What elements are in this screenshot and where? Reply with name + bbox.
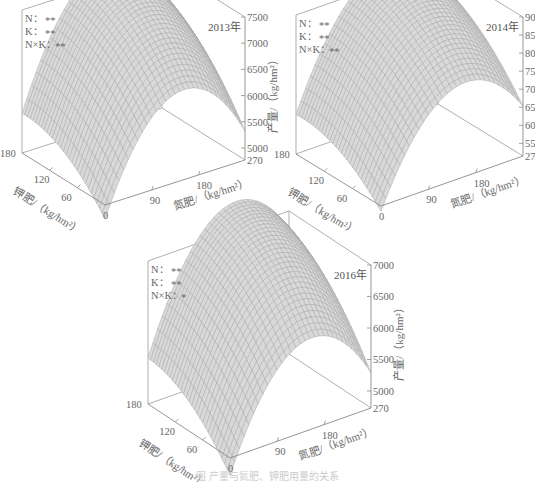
k-tick-label: 180 xyxy=(0,148,16,159)
significance-stars: ** xyxy=(319,33,330,44)
significance-label: K： xyxy=(25,26,43,37)
k-tick-label: 60 xyxy=(337,193,348,204)
z-tick-label: 7000 xyxy=(525,84,535,95)
significance-label: K： xyxy=(299,31,317,42)
chart-2014: 5500600065007000750080008500900009018027… xyxy=(278,0,535,230)
z-tick-label: 5500 xyxy=(525,138,535,149)
chart-2013: 5000550060006500700075000901802706012018… xyxy=(0,0,270,230)
significance-label: N： xyxy=(25,13,43,24)
k-tick-label: 60 xyxy=(61,192,71,203)
n-tick-label: 90 xyxy=(426,194,437,205)
significance-stars: ** xyxy=(45,15,56,26)
significance-label: N×K： xyxy=(299,44,330,55)
z-tick-label: 7000 xyxy=(247,38,268,49)
z-axis-title: 产量/（kg/hm²） xyxy=(392,302,405,380)
z-axis-ticks: 55006000650070007500800085009000 xyxy=(519,12,535,149)
n-tick-label: 0 xyxy=(103,210,108,221)
n-tick-label: 270 xyxy=(247,155,263,166)
z-tick-label: 5500 xyxy=(373,354,394,365)
z-tick-label: 7000 xyxy=(373,260,394,271)
k-axis-title: 钾肥/（kg/hm²） xyxy=(11,184,84,237)
surface-plot-2014: 5500600065007000750080008500900009018027… xyxy=(278,0,535,230)
n-tick-label: 0 xyxy=(379,211,384,222)
z-tick-label: 9000 xyxy=(525,12,535,23)
k-axis-title: 钾肥/（kg/hm²） xyxy=(286,185,360,237)
significance-stars: * xyxy=(181,292,186,303)
k-tick-label: 120 xyxy=(308,175,324,186)
z-tick-label: 5000 xyxy=(373,386,394,397)
significance-label: N×K： xyxy=(25,39,56,50)
z-tick-label: 7500 xyxy=(247,12,268,23)
surface-plot-2016: 5000550060006500700009018027060120180氮肥/… xyxy=(128,248,418,473)
year-label: 2016年 xyxy=(334,268,367,281)
significance-legend: N：**K：**N×K：* xyxy=(151,264,186,303)
z-tick-label: 6500 xyxy=(373,291,394,302)
z-tick-label: 8000 xyxy=(525,48,535,59)
k-tick-label: 180 xyxy=(126,399,142,410)
k-tick-label: 60 xyxy=(187,444,198,455)
n-tick-label: 270 xyxy=(525,151,535,162)
n-tick-label: 270 xyxy=(373,403,389,414)
year-label: 2014年 xyxy=(486,20,519,33)
z-tick-label: 5000 xyxy=(247,143,268,154)
year-label: 2013年 xyxy=(208,20,241,33)
z-tick-label: 6000 xyxy=(525,120,535,131)
significance-stars: ** xyxy=(171,279,182,290)
significance-stars: ** xyxy=(329,46,340,57)
z-tick-label: 6000 xyxy=(247,91,268,102)
k-tick-label: 180 xyxy=(274,149,290,160)
z-tick-label: 6000 xyxy=(373,323,394,334)
chart-2016: 5000550060006500700009018027060120180氮肥/… xyxy=(128,248,418,473)
z-tick-label: 5500 xyxy=(247,117,268,128)
significance-stars: ** xyxy=(171,266,182,277)
n-tick-label: 90 xyxy=(150,195,161,206)
n-tick-label: 90 xyxy=(275,446,286,457)
significance-label: N×K： xyxy=(151,290,182,301)
significance-stars: ** xyxy=(319,20,330,31)
z-tick-label: 8500 xyxy=(525,30,535,41)
z-tick-label: 7500 xyxy=(525,66,535,77)
significance-stars: ** xyxy=(55,41,66,52)
significance-label: N： xyxy=(151,264,169,275)
significance-label: K： xyxy=(151,277,169,288)
significance-stars: ** xyxy=(45,28,56,39)
surface-plot-2013: 5000550060006500700075000901802706012018… xyxy=(0,0,270,230)
z-tick-label: 6500 xyxy=(247,64,268,75)
k-tick-label: 120 xyxy=(159,426,175,437)
k-tick-label: 120 xyxy=(34,174,50,185)
significance-label: N： xyxy=(299,18,317,29)
figure-caption: 图 产量与氮肥、钾肥用量的关系 xyxy=(0,468,535,482)
z-tick-label: 6500 xyxy=(525,102,535,113)
